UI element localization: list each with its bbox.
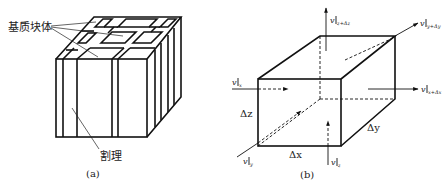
svg-text:z+Δz: z+Δz [336, 20, 350, 26]
flow-out-y-arrow [395, 23, 418, 36]
velocity-label-in-z: v z [331, 158, 341, 168]
cube-top-face [258, 36, 395, 79]
block-front-face [56, 59, 147, 137]
svg-text:x+Δx: x+Δx [428, 89, 442, 95]
block-side-face [147, 17, 181, 137]
dim-x-label: Δx [289, 149, 302, 160]
caption-a: (a) [86, 168, 100, 179]
top-matrix-blocks [63, 19, 176, 59]
dim-z-label: Δz [240, 108, 253, 119]
svg-text:v: v [330, 16, 335, 25]
svg-text:v: v [331, 158, 336, 167]
matrix-block [133, 32, 162, 43]
control-volume-diagram: Δz Δx Δy v x v x+Δx v y v y+Δy v z [232, 8, 442, 180]
svg-text:v: v [420, 19, 425, 28]
velocity-label-out-z: v z+Δz [330, 16, 350, 26]
velocity-label-out-x: v x+Δx [421, 85, 442, 95]
velocity-label-in-x: v x [232, 78, 242, 88]
svg-text:z: z [337, 162, 341, 168]
cleat-label: 割理 [100, 149, 122, 163]
side-cleats [155, 28, 174, 127]
svg-text:x: x [239, 82, 242, 88]
velocity-label-out-y: v y+Δy [420, 19, 441, 30]
flow-in-y-arrow [237, 143, 258, 157]
svg-text:y+Δy: y+Δy [426, 23, 441, 30]
velocity-label-in-y: v y [243, 157, 253, 168]
cleat-leader [72, 108, 99, 149]
svg-text:y: y [249, 161, 253, 168]
front-cleats [63, 59, 118, 137]
matrix-block [118, 19, 157, 27]
svg-text:v: v [243, 157, 248, 166]
matrix-block-label: 基质块体 [8, 20, 52, 34]
coal-block-diagram: 基质块体 割理 (a) [8, 17, 181, 179]
matrix-block [95, 19, 112, 27]
dim-y-label: Δy [367, 122, 380, 133]
matrix-block [78, 33, 96, 43]
svg-text:v: v [421, 85, 426, 94]
caption-b: (b) [300, 169, 314, 180]
svg-text:v: v [232, 78, 237, 87]
figure-canvas: 基质块体 割理 (a) Δz Δx Δy v [0, 0, 444, 184]
